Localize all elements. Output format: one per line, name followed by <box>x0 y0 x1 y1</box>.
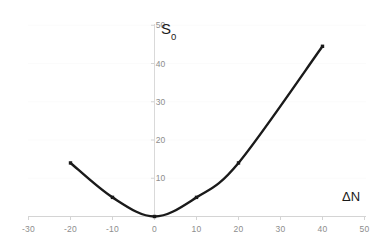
x-tick-label: 40 <box>318 224 328 234</box>
data-point-marker <box>195 196 198 199</box>
plot-area <box>0 0 385 247</box>
y-axis-title: S0 <box>161 20 176 40</box>
y-tick-label: 40 <box>146 59 166 69</box>
y-axis-title-subscript: 0 <box>171 31 176 42</box>
x-tick-label: 10 <box>192 224 202 234</box>
x-tick-label: 50 <box>360 224 370 234</box>
x-tick-label: 0 <box>152 224 157 234</box>
y-tick-label: 30 <box>146 97 166 107</box>
x-tick-marks-group <box>29 217 365 221</box>
data-point-marker <box>111 196 114 199</box>
data-point-marker <box>321 45 324 48</box>
y-tick-label: 20 <box>146 135 166 145</box>
data-point-marker <box>153 215 156 218</box>
data-series-line <box>71 46 323 216</box>
data-point-marker <box>237 161 240 164</box>
x-tick-label: -10 <box>106 224 119 234</box>
x-tick-label: 20 <box>234 224 244 234</box>
chart-container: -30-20-1001020304050 1020304050 S0 ΔN <box>0 0 385 247</box>
data-point-marker <box>69 161 72 164</box>
x-axis-title: ΔN <box>342 189 360 204</box>
y-tick-label: 10 <box>146 173 166 183</box>
x-tick-label: -30 <box>22 224 35 234</box>
x-tick-label: -20 <box>64 224 77 234</box>
gridlines-group <box>28 25 366 178</box>
y-axis-title-base: S <box>161 20 171 37</box>
x-tick-label: 30 <box>276 224 286 234</box>
